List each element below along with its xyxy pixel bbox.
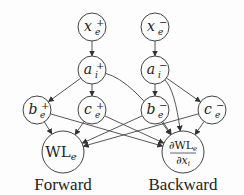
forward-caption: Forward [34, 175, 92, 194]
svg-text:e: e [95, 27, 100, 37]
svg-text:c: c [204, 101, 212, 117]
edge-b-neg-to-grad [163, 122, 172, 135]
node-grad: ∂WLe∂xi [162, 131, 204, 173]
graph-svg: x+ea+ib+ec+eWLex−ea−ib−ec−e∂WLe∂xi Forwa… [0, 0, 244, 195]
edge-b-pos-to-wl [44, 122, 52, 134]
node-x-neg: x−e [141, 13, 169, 41]
svg-text:c: c [84, 101, 92, 117]
computation-graph-diagram: x+ea+ib+ec+eWLex−ea−ib−ec−e∂WLe∂xi Forwa… [0, 0, 244, 195]
svg-text:b: b [29, 101, 38, 117]
edge-a-neg-to-c-neg [166, 78, 200, 102]
edge-a-pos-to-b-pos [48, 78, 80, 102]
nodes: x+ea+ib+ec+eWLex−ea−ib−ec−e∂WLe∂xi [23, 13, 226, 173]
edges [44, 41, 204, 146]
svg-text:x: x [147, 18, 155, 34]
node-x-pos: x+e [78, 13, 106, 41]
node-a-neg: a−i [141, 56, 169, 84]
node-wl: WLe [42, 131, 84, 173]
node-a-pos: a+i [78, 56, 106, 84]
svg-text:e: e [158, 27, 163, 37]
node-c-pos: c+e [78, 96, 106, 124]
backward-caption: Backward [149, 175, 218, 194]
svg-text:a: a [147, 61, 155, 77]
svg-text:∂WLe: ∂WLe [169, 139, 197, 153]
node-b-neg: b−e [141, 96, 169, 124]
node-b-pos: b+e [23, 96, 51, 124]
svg-text:i: i [95, 70, 98, 80]
svg-text:b: b [147, 101, 156, 117]
svg-text:e: e [95, 110, 100, 120]
node-c-neg: c−e [198, 96, 226, 124]
svg-text:e: e [158, 110, 163, 120]
svg-text:i: i [158, 70, 161, 80]
svg-text:x: x [84, 18, 92, 34]
edge-c-neg-to-grad [195, 122, 204, 135]
svg-text:a: a [84, 61, 92, 77]
svg-text:e: e [40, 110, 45, 120]
svg-text:e: e [215, 110, 220, 120]
